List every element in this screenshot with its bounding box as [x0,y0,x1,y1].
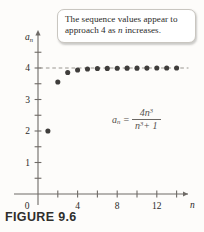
y-axis-tick-label: 2 [25,126,30,136]
callout-line-1-text: The sequence values appear to [65,14,178,24]
formula-lhs-subscript: n [117,118,120,125]
x-axis-tick-label: 12 [152,201,162,211]
data-point [164,66,169,71]
data-point [45,128,50,133]
y-axis-title: an [25,32,34,43]
data-point [144,66,149,71]
data-point [105,66,110,71]
figure-container: 048121234ann The sequence values appear … [0,0,204,232]
data-point [154,66,159,71]
data-point [174,65,179,70]
formula-numerator-exponent: 3 [150,107,153,114]
y-axis-tick-label: 4 [25,63,30,73]
data-point [125,66,130,71]
data-point [55,79,60,84]
x-axis-arrowhead [183,191,188,196]
callout-line-2-suffix: increases. [123,25,161,35]
x-axis-title: n [190,200,195,210]
data-point [134,66,139,71]
y-axis-arrowhead [35,30,40,35]
callout-line-1: The sequence values appear to [65,14,189,25]
x-axis-tick-label: 8 [115,201,120,211]
formula-numerator: 4n3 [137,108,156,119]
formula-fraction: 4n3 n3+ 1 [132,108,161,131]
formula-denominator: n3+ 1 [132,120,161,131]
data-point [85,66,90,71]
formula-left-hand-side: an [112,114,120,125]
data-point [75,67,80,72]
callout-line-2-prefix: approach 4 as [65,25,118,35]
formula-denominator-constant: + 1 [143,120,157,131]
y-axis-tick-label: 1 [25,158,30,168]
y-axis-tick-label: 3 [25,95,30,105]
figure-caption: FIGURE 9.6 [5,210,77,224]
callout-box: The sequence values appear to approach 4… [57,9,196,43]
sequence-formula: an = 4n3 n3+ 1 [112,108,161,131]
data-point [115,66,120,71]
data-point [65,70,70,75]
formula-equals-sign: = [123,114,129,125]
data-point [95,66,100,71]
callout-line-2: approach 4 as n increases. [65,25,189,36]
